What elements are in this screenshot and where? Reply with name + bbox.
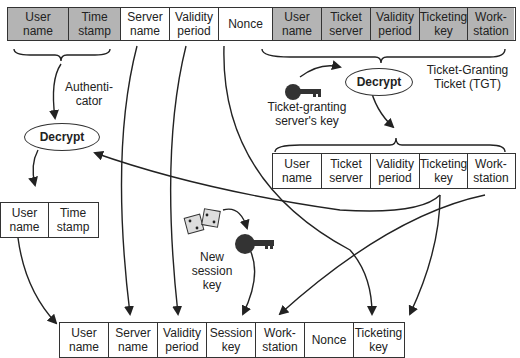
authenticator-row: User name Time stamp Server name Validit…	[7, 7, 274, 41]
dauth-user-name-cell: User name	[1, 203, 49, 237]
st-server-name-cell: Server name	[109, 323, 158, 357]
dtgt-ticket-server-cell: Ticket server	[322, 154, 371, 188]
tgt-validity-cell: Validity period	[371, 8, 420, 40]
dauth-time-stamp-cell: Time stamp	[49, 203, 97, 237]
new-session-key-label: New session key	[190, 250, 234, 292]
dtgt-validity-cell: Validity period	[371, 154, 420, 188]
dtgt-user-name-cell: User name	[273, 154, 322, 188]
dtgt-workstation-cell: Work- station	[468, 154, 514, 188]
st-ticketing-key-cell: Ticketing key	[354, 323, 403, 357]
decrypted-tgt-row: User name Ticket server Validity period …	[272, 153, 516, 189]
tgt-ticket-server-cell: Ticket server	[322, 8, 371, 40]
authenticator-label: Authenti- cator	[64, 80, 114, 108]
service-ticket-row: User name Server name Validity period Se…	[59, 322, 405, 358]
server-name-cell: Server name	[121, 8, 170, 40]
tgs-key-icon	[285, 84, 321, 100]
kerberos-ticket-diagram: User name Time stamp Server name Validit…	[0, 0, 520, 358]
tgs-key-label: Ticket-granting server's key	[257, 100, 357, 128]
decrypted-auth-row: User name Time stamp	[0, 202, 99, 238]
st-nonce-cell: Nonce	[305, 323, 354, 357]
st-workstation-cell: Work- station	[256, 323, 305, 357]
auth-user-name-cell: User name	[8, 8, 69, 40]
tgt-ticketing-key-cell: Ticketing key	[420, 8, 468, 40]
auth-time-stamp-cell: Time stamp	[69, 8, 121, 40]
dice-icon	[184, 209, 220, 234]
nonce-cell: Nonce	[219, 8, 272, 40]
tgt-user-name-cell: User name	[273, 8, 322, 40]
tgt-label: Ticket-Granting Ticket (TGT)	[415, 63, 520, 91]
tgt-workstation-cell: Work- station	[468, 8, 514, 40]
st-validity-cell: Validity period	[158, 323, 207, 357]
st-user-name-cell: User name	[60, 323, 109, 357]
validity-period-cell: Validity period	[170, 8, 219, 40]
decrypt-tgt: Decrypt	[345, 68, 413, 96]
session-key-icon	[235, 234, 274, 254]
dtgt-ticketing-key-cell: Ticketing key	[420, 154, 468, 188]
tgt-row: User name Ticket server Validity period …	[272, 7, 516, 41]
decrypt-authenticator: Decrypt	[24, 123, 100, 151]
st-session-key-cell: Session key	[207, 323, 256, 357]
